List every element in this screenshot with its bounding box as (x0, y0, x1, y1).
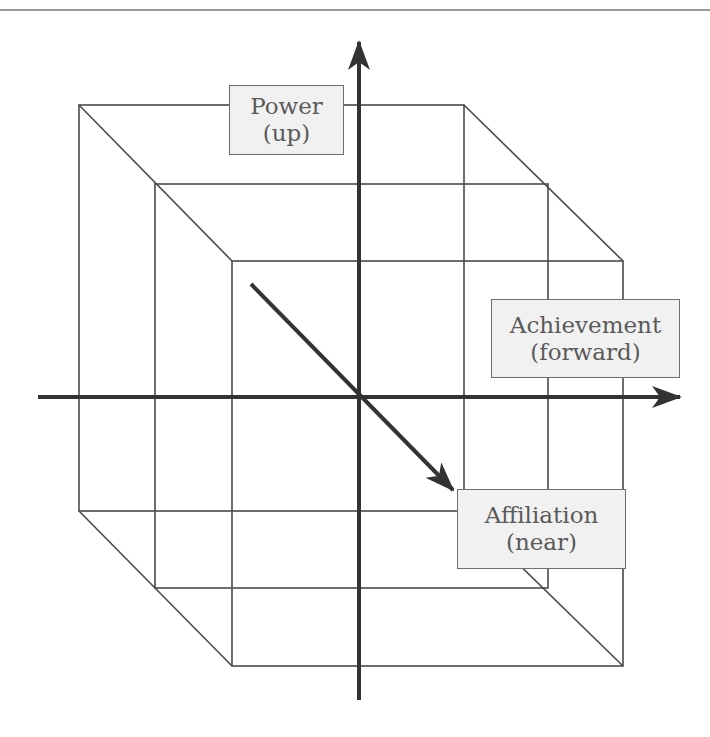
power-direction: (up) (263, 120, 310, 147)
affiliation-axis (251, 284, 453, 490)
affiliation-label-box: Affiliation (near) (457, 489, 626, 569)
back-frame (79, 105, 464, 511)
achievement-label-box: Achievement (forward) (491, 299, 680, 378)
affiliation-label: Affiliation (485, 502, 599, 529)
affiliation-direction: (near) (506, 529, 577, 556)
achievement-label: Achievement (510, 312, 661, 339)
depth-edge-top-right (464, 105, 623, 261)
power-label: Power (250, 93, 323, 120)
power-label-box: Power (up) (229, 85, 344, 155)
achievement-direction: (forward) (530, 339, 640, 366)
